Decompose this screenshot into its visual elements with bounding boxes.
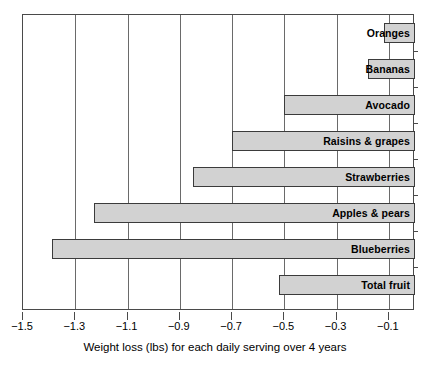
row-tick-4 [413, 195, 418, 196]
bar-label: Raisins & grapes [323, 135, 414, 147]
x-tick-5 [283, 312, 284, 320]
x-tick-2 [127, 312, 128, 320]
x-tick-label-0: −1.5 [11, 320, 33, 332]
x-tick-6 [336, 312, 337, 320]
gridline-5 [284, 15, 285, 309]
bar-raisins-grapes: Raisins & grapes [232, 131, 415, 151]
x-tick-3 [179, 312, 180, 320]
x-tick-label-6: −0.3 [325, 320, 347, 332]
gridline-6 [337, 15, 338, 309]
row-tick-6 [413, 267, 418, 268]
gridline-2 [128, 15, 129, 309]
row-tick-2 [413, 123, 418, 124]
gridline-4 [232, 15, 233, 309]
bar-blueberries: Blueberries [52, 239, 415, 259]
x-tick-label-2: −1.1 [116, 320, 138, 332]
bar-label: Avocado [365, 99, 414, 111]
row-tick-5 [413, 231, 418, 232]
bar-total-fruit: Total fruit [279, 275, 415, 295]
bar-bananas: Bananas [368, 59, 415, 79]
bar-oranges: Oranges [384, 23, 415, 43]
x-tick-4 [231, 312, 232, 320]
bar-chart: OrangesBananasAvocadoRaisins & grapesStr… [0, 0, 430, 367]
row-tick-0 [413, 51, 418, 52]
x-tick-label-4: −0.7 [220, 320, 242, 332]
x-tick-label-1: −1.3 [63, 320, 85, 332]
x-tick-label-7: −0.1 [377, 320, 399, 332]
x-tick-7 [388, 312, 389, 320]
bar-label: Bananas [366, 63, 414, 75]
gridline-1 [75, 15, 76, 309]
bar-label: Total fruit [361, 279, 414, 291]
bar-apples-pears: Apples & pears [94, 203, 415, 223]
x-tick-label-5: −0.5 [272, 320, 294, 332]
bar-avocado: Avocado [284, 95, 415, 115]
bar-label: Strawberries [345, 171, 414, 183]
bar-label: Apples & pears [332, 207, 414, 219]
row-tick-3 [413, 159, 418, 160]
x-tick-0 [22, 312, 23, 320]
x-axis-title: Weight loss (lbs) for each daily serving… [0, 341, 430, 353]
bar-strawberries: Strawberries [193, 167, 415, 187]
plot-area: OrangesBananasAvocadoRaisins & grapesStr… [22, 14, 414, 310]
row-tick-1 [413, 87, 418, 88]
bar-label: Oranges [367, 27, 414, 39]
x-tick-1 [74, 312, 75, 320]
x-tick-label-3: −0.9 [168, 320, 190, 332]
gridline-3 [180, 15, 181, 309]
bar-label: Blueberries [351, 243, 414, 255]
